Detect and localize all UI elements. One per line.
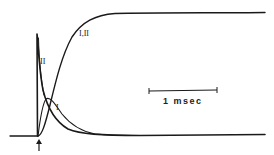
label-I-II: I,II xyxy=(79,29,89,38)
scale-bar-label: 1 msec xyxy=(163,96,203,106)
figure-canvas: I,II II I 1 msec xyxy=(0,0,274,155)
label-II: II xyxy=(40,57,46,66)
arrow-up-icon xyxy=(36,139,42,151)
scale-bar: 1 msec xyxy=(149,87,217,106)
curve-I-II-sigmoid xyxy=(38,13,265,137)
label-I: I xyxy=(56,103,59,112)
curve-II-spike xyxy=(37,34,265,136)
